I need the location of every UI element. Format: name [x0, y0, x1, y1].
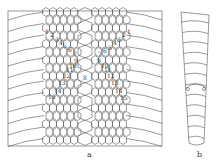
left-ventral-lines [8, 12, 44, 147]
scale-number: 12 [63, 72, 71, 79]
scale-number: 13 [58, 79, 66, 86]
panel-b-label: b [197, 150, 202, 159]
scale-number: 5 [63, 42, 67, 49]
scale-number: 6 [103, 47, 107, 54]
right-ventral-lines [126, 12, 162, 147]
scale-number: 12 [107, 72, 115, 79]
scale-number: 2 [122, 31, 126, 38]
scale-number: 3 [117, 36, 121, 43]
scale-number: 7 [98, 50, 102, 57]
scale-number: 15 [120, 94, 128, 101]
scale-diagram: 1234567910111213141512345679101112131415… [0, 0, 216, 166]
panel-b [181, 12, 209, 145]
scale-number: 14 [115, 87, 123, 94]
scale-number: 7 [73, 50, 77, 57]
scale-number: 15 [48, 93, 56, 100]
center-scale-number: 8 [83, 74, 87, 81]
panel-a-label: a [87, 150, 92, 159]
scale-number: 6 [68, 46, 72, 53]
scale-number: 1 [45, 28, 49, 35]
scale-number: 1 [127, 28, 131, 35]
scale-number: 2 [50, 31, 54, 38]
scale-number: 5 [108, 44, 112, 51]
scale-number: 4 [113, 39, 117, 46]
scale-number: 13 [111, 79, 119, 86]
